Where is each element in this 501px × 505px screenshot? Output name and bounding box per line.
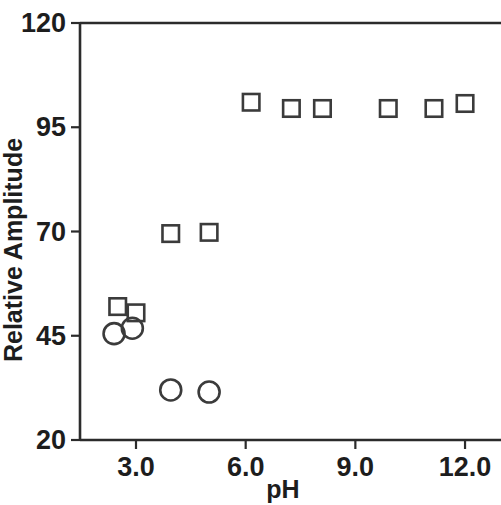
x-axis-title: pH xyxy=(266,475,299,503)
data-point-square xyxy=(201,224,218,241)
x-tick-label: 12.0 xyxy=(439,452,492,482)
data-point-square xyxy=(283,100,300,117)
data-point-square xyxy=(314,100,331,117)
data-point-square xyxy=(380,100,397,117)
axis-tick-labels: 204570951203.06.09.012.0 xyxy=(21,8,491,482)
plot-frame xyxy=(80,23,501,440)
x-tick-label: 3.0 xyxy=(117,452,155,482)
y-tick-label: 45 xyxy=(36,321,66,351)
data-point-square xyxy=(109,298,126,315)
scatter-plot-figure: 204570951203.06.09.012.0 pH Relative Amp… xyxy=(0,0,501,505)
data-point-square xyxy=(426,100,443,117)
data-point-circle xyxy=(160,379,181,400)
y-tick-label: 20 xyxy=(36,425,66,455)
data-point-square xyxy=(457,95,474,112)
y-tick-label: 70 xyxy=(36,217,66,247)
y-axis-title: Relative Amplitude xyxy=(0,138,27,362)
x-tick-label: 9.0 xyxy=(337,452,375,482)
y-tick-label: 120 xyxy=(21,8,66,38)
data-point-square xyxy=(243,94,260,111)
data-point-square xyxy=(162,225,179,242)
x-tick-label: 6.0 xyxy=(227,452,265,482)
data-point-circle xyxy=(199,382,220,403)
axis-ticks xyxy=(71,23,465,449)
y-tick-label: 95 xyxy=(36,112,66,142)
data-markers xyxy=(104,94,474,403)
